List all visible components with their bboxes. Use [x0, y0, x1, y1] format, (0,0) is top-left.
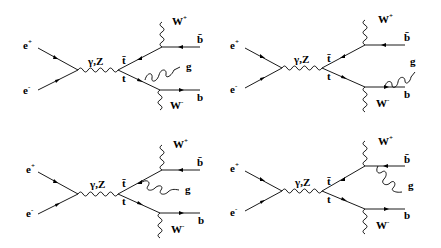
label-b: b: [404, 210, 410, 221]
label-top: t: [327, 194, 331, 205]
label-top-bar: t̄: [327, 176, 331, 187]
label-w-minus: W-: [171, 224, 184, 235]
feynman-diagram-3: e+ e- γ,Z t̄ t W+ b̄ g b W-: [0, 124, 220, 248]
label-w-plus: W+: [378, 14, 393, 25]
label-gluon: g: [185, 184, 191, 195]
label-b: b: [404, 89, 410, 100]
label-gluon: g: [186, 61, 192, 72]
label-top-bar: t̄: [122, 178, 126, 189]
label-gamma-z: γ,Z: [294, 54, 309, 65]
label-top: t: [122, 196, 126, 207]
label-top: t: [327, 71, 331, 82]
label-e-plus: e+: [230, 40, 239, 51]
label-b: b: [197, 92, 203, 103]
label-gamma-z: γ,Z: [90, 179, 105, 190]
label-e-plus: e+: [26, 164, 35, 175]
label-b: b: [198, 215, 204, 226]
label-e-plus: e+: [230, 163, 239, 174]
label-w-minus: W-: [376, 98, 389, 109]
label-top: t: [122, 73, 126, 84]
label-b-bar: b̄: [197, 34, 203, 45]
label-e-plus: e+: [23, 40, 32, 51]
label-top-bar: t̄: [327, 53, 331, 64]
label-e-minus: e-: [230, 207, 237, 218]
label-b-bar: b̄: [197, 157, 203, 168]
feynman-diagram-4: e+ e- γ,Z t̄ t W+ b̄ g b W-: [220, 124, 440, 248]
label-w-plus: W+: [172, 16, 187, 27]
label-gamma-z: γ,Z: [295, 177, 310, 188]
label-w-plus: W+: [173, 139, 188, 150]
label-top-bar: t̄: [122, 55, 126, 66]
label-gluon: g: [410, 56, 416, 67]
label-e-minus: e-: [26, 208, 33, 219]
label-w-minus: W-: [376, 220, 389, 231]
feynman-diagram-2: e+ e- γ,Z t̄ t W+ b̄ g b W-: [220, 0, 440, 124]
label-e-minus: e-: [23, 85, 30, 96]
label-w-plus: W+: [378, 136, 393, 147]
label-w-minus: W-: [170, 100, 183, 111]
label-b-bar: b̄: [404, 32, 410, 43]
label-b-bar: b̄: [404, 154, 410, 165]
label-gamma-z: γ,Z: [88, 56, 103, 67]
feynman-diagram-1: e+ e- γ,Z t̄ t W+ b̄ g b W-: [0, 0, 220, 124]
label-gluon: g: [408, 180, 414, 191]
label-e-minus: e-: [230, 84, 237, 95]
